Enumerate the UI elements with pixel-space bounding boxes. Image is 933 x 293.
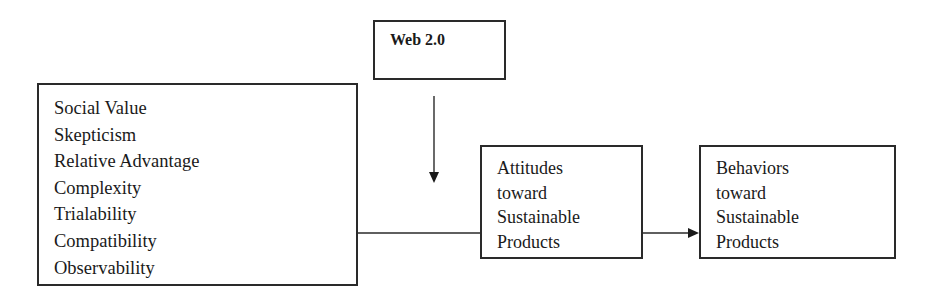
behaviors-box: Behaviors toward Sustainable Products	[699, 145, 896, 259]
attitudes-line-3: Sustainable	[497, 205, 641, 230]
factor-skepticism: Skepticism	[54, 122, 356, 149]
moderator-arrowhead-icon	[429, 172, 439, 183]
behaviors-text: Behaviors toward Sustainable Products	[716, 156, 894, 254]
behaviors-line-3: Sustainable	[716, 205, 894, 230]
attitudes-text: Attitudes toward Sustainable Products	[497, 156, 641, 254]
factors-list: Social Value Skepticism Relative Advanta…	[54, 95, 356, 281]
attitudes-box: Attitudes toward Sustainable Products	[480, 145, 643, 259]
factor-compatibility: Compatibility	[54, 228, 356, 255]
factor-relative-advantage: Relative Advantage	[54, 148, 356, 175]
factor-observability: Observability	[54, 255, 356, 282]
moderator-label: Web 2.0	[390, 31, 445, 48]
factor-complexity: Complexity	[54, 175, 356, 202]
behaviors-line-2: toward	[716, 181, 894, 206]
attitudes-line-4: Products	[497, 230, 641, 255]
behaviors-line-4: Products	[716, 230, 894, 255]
factors-box: Social Value Skepticism Relative Advanta…	[37, 83, 358, 286]
behaviors-line-1: Behaviors	[716, 156, 894, 181]
attitudes-line-1: Attitudes	[497, 156, 641, 181]
moderator-box-web2: Web 2.0	[373, 20, 506, 80]
factor-trialability: Trialability	[54, 201, 356, 228]
attitudes-line-2: toward	[497, 181, 641, 206]
factor-social-value: Social Value	[54, 95, 356, 122]
behaviors-arrowhead-icon	[688, 228, 699, 238]
